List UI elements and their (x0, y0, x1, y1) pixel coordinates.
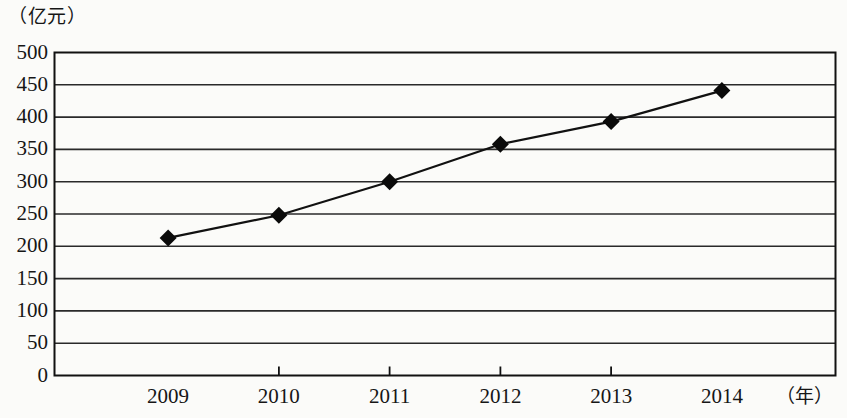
data-point-marker (270, 207, 287, 224)
gridlines (55, 85, 835, 343)
data-point-marker (381, 173, 398, 190)
data-point-marker (603, 113, 620, 130)
plot-area (0, 0, 847, 418)
data-line (168, 91, 722, 238)
chart-screenshot: （亿元） 500450400350300250200150100500 2009… (0, 0, 847, 418)
x-axis-tick-marks (279, 367, 611, 376)
data-point-marker (160, 229, 177, 246)
